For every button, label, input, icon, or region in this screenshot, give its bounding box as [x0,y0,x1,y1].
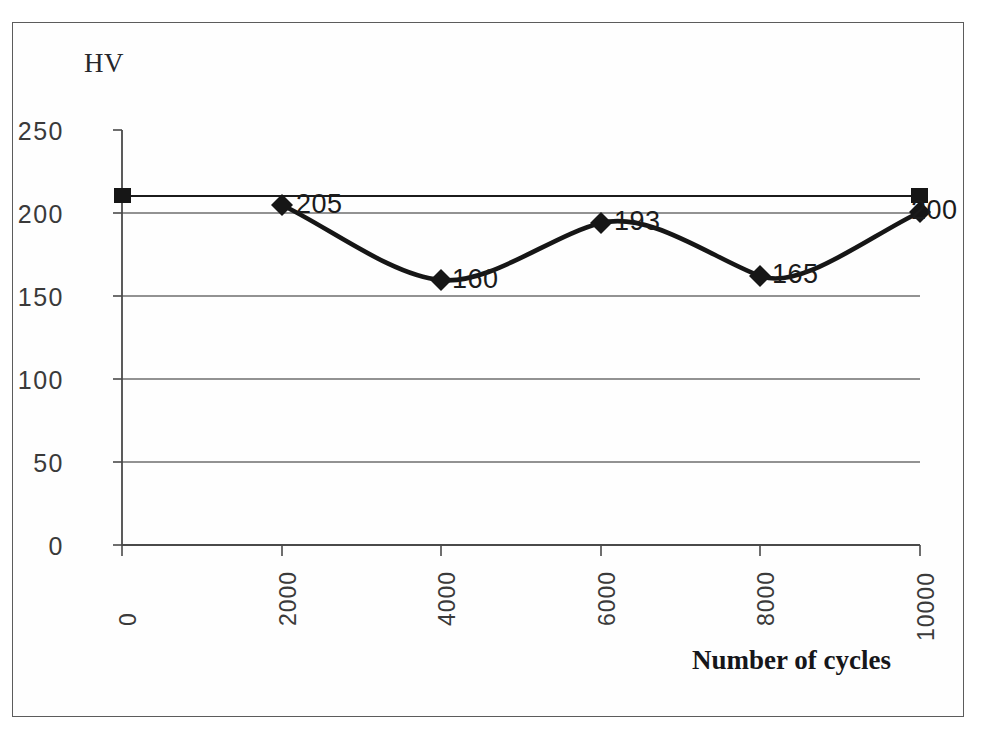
figure-frame [12,22,964,717]
y-tick-label-150: 150 [0,283,64,312]
x-axis-title: Number of cycles [692,645,891,676]
x-tick-label-10000: 10000 [913,572,940,641]
x-tick-label-4000: 4000 [434,571,461,626]
point-label-2000: 205 [296,189,343,220]
point-label-4000: 160 [452,264,499,295]
x-tick-label-6000: 6000 [594,571,621,626]
y-tick-label-250: 250 [0,117,64,146]
x-tick-label-0: 0 [115,612,142,626]
y-axis-title: HV [84,48,124,79]
y-tick-label-200: 200 [0,200,64,229]
x-tick-label-8000: 8000 [753,571,780,626]
y-tick-label-50: 50 [0,449,64,478]
y-tick-label-100: 100 [0,366,64,395]
x-tick-label-2000: 2000 [275,571,302,626]
point-label-10000: 200 [911,195,958,226]
y-tick-label-0: 0 [0,532,64,561]
point-label-8000: 165 [772,259,819,290]
point-label-6000: 193 [614,206,661,237]
